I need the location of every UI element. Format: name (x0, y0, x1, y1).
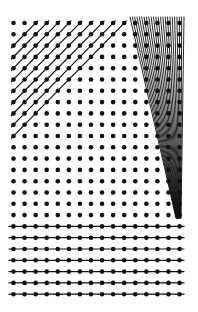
grid-dot (177, 156, 182, 161)
grid-dot (122, 190, 127, 195)
grid-dot (89, 100, 94, 105)
grid-dot (155, 55, 160, 60)
grid-dot (11, 292, 16, 297)
grid-dot (89, 281, 94, 286)
grid-dot (144, 111, 149, 116)
grid-dot (177, 21, 182, 26)
grid-dot (11, 89, 16, 94)
grid-dot (67, 190, 72, 195)
grid-dot (89, 134, 94, 139)
grid-dot (100, 202, 105, 207)
grid-dot (55, 55, 60, 60)
grid-dot (111, 43, 116, 48)
grid-dot (89, 156, 94, 161)
grid-dot (78, 32, 83, 37)
grid-dot (78, 21, 83, 26)
grid-dot (44, 247, 49, 252)
grid-dot (55, 100, 60, 105)
grid-dot (100, 100, 105, 105)
grid-dot (67, 55, 72, 60)
grid-dot (100, 43, 105, 48)
grid-dot (100, 55, 105, 60)
grid-dot (11, 134, 16, 139)
grid-dot (44, 224, 49, 229)
grid-dot (55, 292, 60, 297)
grid-dot (55, 224, 60, 229)
grid-dot (144, 168, 149, 173)
grid-dot (78, 292, 83, 297)
grid-dot (22, 21, 27, 26)
grid-dot (33, 32, 38, 37)
grid-dot (111, 111, 116, 116)
grid-dot (166, 77, 171, 82)
grid-dot (166, 202, 171, 207)
grid-dot (67, 43, 72, 48)
grid-dot (177, 66, 182, 71)
grid-dot (22, 32, 27, 37)
grid-dot (78, 100, 83, 105)
grid-dot (133, 156, 138, 161)
grid-dot (144, 224, 149, 229)
grid-dot (100, 292, 105, 297)
grid-dot (67, 66, 72, 71)
grid-dot (166, 179, 171, 184)
grid-dot (133, 111, 138, 116)
grid-dot (166, 145, 171, 150)
grid-dot (177, 281, 182, 286)
grid-dot (166, 213, 171, 218)
grid-dot (144, 202, 149, 207)
grid-dot (89, 122, 94, 127)
grid-dot (55, 247, 60, 252)
grid-dot (166, 269, 171, 274)
grid-dot (144, 134, 149, 139)
grid-dot (55, 213, 60, 218)
grid-dot (166, 292, 171, 297)
grid-dot (67, 179, 72, 184)
grid-dot (111, 281, 116, 286)
grid-dot (22, 190, 27, 195)
grid-dot (67, 224, 72, 229)
grid-dot (133, 100, 138, 105)
grid-dot (100, 21, 105, 26)
grid-dot (133, 55, 138, 60)
grid-dot (166, 156, 171, 161)
grid-dot (89, 269, 94, 274)
grid-dot (22, 134, 27, 139)
grid-dot (177, 145, 182, 150)
grid-dot (55, 145, 60, 150)
grid-dot (122, 224, 127, 229)
grid-dot (55, 77, 60, 82)
grid-dot (133, 134, 138, 139)
grid-dot (89, 247, 94, 252)
grid-dot (111, 179, 116, 184)
grid-dot (144, 213, 149, 218)
grid-dot (100, 190, 105, 195)
grid-dot (11, 213, 16, 218)
grid-dot (67, 134, 72, 139)
grid-dot (22, 145, 27, 150)
grid-dot (44, 77, 49, 82)
grid-dot (177, 269, 182, 274)
grid-dot (22, 100, 27, 105)
grid-dot (166, 89, 171, 94)
grid-dot (44, 269, 49, 274)
grid-dot (100, 32, 105, 37)
grid-dot (177, 213, 182, 218)
grid-dot (22, 292, 27, 297)
grid-dot (133, 247, 138, 252)
grid-dot (33, 202, 38, 207)
grid-dot (122, 292, 127, 297)
grid-dot (44, 179, 49, 184)
grid-dot (55, 156, 60, 161)
grid-dot (67, 145, 72, 150)
grid-dot (144, 281, 149, 286)
grid-dot (133, 202, 138, 207)
grid-dot (111, 190, 116, 195)
grid-dot (78, 89, 83, 94)
grid-dot (133, 190, 138, 195)
grid-dot (177, 111, 182, 116)
grid-dot (144, 89, 149, 94)
grid-dot (55, 111, 60, 116)
grid-dot (155, 21, 160, 26)
grid-dot (111, 134, 116, 139)
